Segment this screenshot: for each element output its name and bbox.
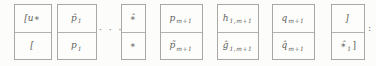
cell-7-bottom-main: ∗̂ (340, 41, 346, 50)
cell-3-bottom: ∗ (122, 33, 145, 60)
cell-1-bottom-main: [ (30, 41, 34, 50)
cell-5-bottom-sub: 1,m+1 (230, 46, 253, 52)
cell-2-bottom-sub: 1 (78, 46, 82, 52)
math-tableau-figure: [u∗ [ p̂1 p1 · · · ∗̂ ∗ pm+1 p̃m+1 h1,m+… (0, 0, 376, 66)
cell-4-bottom-sub: m+1 (176, 46, 192, 52)
cell-4-top-main: p (170, 14, 176, 23)
cell-6-bottom: q̂m+1 (273, 33, 314, 60)
tableau-cell-3: ∗̂ ∗ (121, 4, 146, 60)
cell-4-bottom: p̃m+1 (161, 33, 202, 60)
cell-2-bottom-main: p (71, 41, 77, 50)
cell-2-top-sub: 1 (78, 18, 82, 24)
cell-5-top: h1,m+1 (218, 5, 258, 33)
tableau-cell-6: qm+1 q̂m+1 (272, 4, 315, 60)
cell-6-top: qm+1 (273, 5, 314, 33)
tableau-cell-7: ] ∗̂1] (331, 4, 365, 60)
cell-6-bottom-sub: m+1 (288, 46, 304, 52)
cell-3-bottom-main: ∗ (129, 41, 135, 50)
cell-2-bottom: p1 (58, 33, 96, 60)
cell-4-bottom-main: p̃ (170, 41, 176, 50)
cell-6-top-sub: m+1 (288, 18, 304, 24)
cell-1-top-main: [u∗ (24, 14, 39, 23)
cell-1-bottom: [ (15, 33, 51, 60)
cell-7-top-main: ] (345, 14, 349, 23)
tableau-cell-4: pm+1 p̃m+1 (160, 4, 203, 60)
cell-6-top-main: q (282, 14, 288, 23)
cell-7-bottom-sub: 1 (347, 46, 351, 52)
cell-5-top-sub: 1,m+1 (230, 18, 253, 24)
cell-7-bottom: ∗̂1] (332, 33, 364, 60)
tableau-cell-1: [u∗ [ (14, 4, 52, 60)
cell-2-top: p̂1 (58, 5, 96, 33)
cell-7-bottom-post: ] (352, 41, 356, 50)
cell-3-top: ∗̂ (122, 5, 145, 33)
cell-5-bottom: ĝ1,m+1 (218, 33, 258, 60)
cell-2-top-main: p̂ (71, 14, 77, 23)
tableau-cell-2: p̂1 p1 (57, 4, 97, 60)
trailing-colon: : (368, 23, 371, 33)
cell-1-top: [u∗ (15, 5, 51, 33)
cell-5-bottom-main: ĝ (223, 41, 229, 50)
cell-6-bottom-main: q̂ (282, 41, 288, 50)
cell-5-top-main: h (223, 14, 229, 23)
ellipsis-dots: · · · (99, 25, 123, 35)
tableau-cell-5: h1,m+1 ĝ1,m+1 (217, 4, 259, 60)
cell-7-top: ] (332, 5, 364, 33)
cell-3-top-main: ∗̂ (129, 14, 135, 23)
cell-4-top-sub: m+1 (176, 18, 192, 24)
cell-4-top: pm+1 (161, 5, 202, 33)
